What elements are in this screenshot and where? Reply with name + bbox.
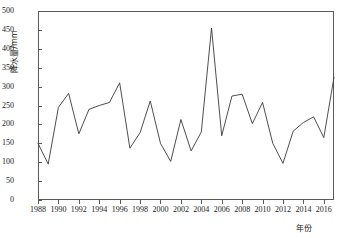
precipitation-line <box>38 28 334 164</box>
series-layer <box>0 0 350 238</box>
precipitation-line-chart: 降水量/mm 年份 050100150200250300350400450500… <box>0 0 350 238</box>
